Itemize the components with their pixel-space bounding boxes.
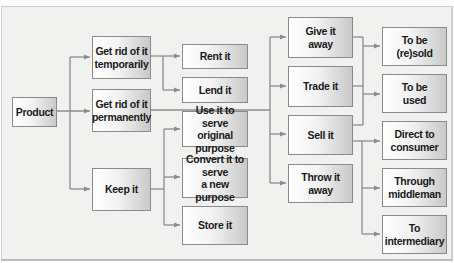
- node-rent-it: Rent it: [182, 44, 248, 69]
- node-sell-it: Sell it: [288, 115, 353, 155]
- node-direct-to-consumer: Direct to consumer: [382, 121, 447, 160]
- node-give-it-away: Give it away: [288, 17, 353, 58]
- node-to-intermediary: To intermediary: [382, 215, 447, 254]
- node-throw-it-away: Throw it away: [288, 164, 353, 203]
- node-to-be-resold: To be (re)sold: [382, 27, 447, 66]
- node-keep-it: Keep it: [92, 168, 151, 211]
- node-trade-it: Trade it: [288, 66, 353, 107]
- node-product: Product: [12, 97, 57, 127]
- node-through-middleman: Through middleman: [382, 168, 447, 207]
- node-convert-new-purpose: Convert it to serve a new purpose: [182, 158, 248, 198]
- node-use-original-purpose: Use it to serve original purpose: [182, 111, 248, 147]
- node-get-rid-permanently: Get rid of it permanently: [92, 89, 151, 132]
- node-to-be-used: To be used: [382, 74, 447, 113]
- node-lend-it: Lend it: [182, 77, 248, 103]
- node-get-rid-temporarily: Get rid of it temporarily: [92, 36, 151, 79]
- node-store-it: Store it: [182, 206, 248, 245]
